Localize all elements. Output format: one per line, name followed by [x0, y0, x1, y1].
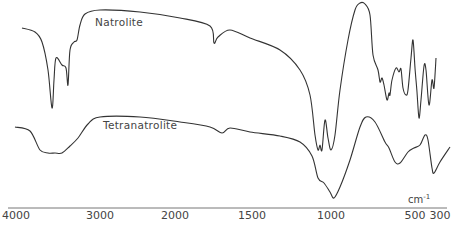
x-tick-label: 1500: [238, 209, 266, 222]
x-axis-unit-label: cm-1: [408, 193, 430, 205]
x-tick-label: 4000: [2, 209, 30, 222]
x-tick-label: 1000: [317, 209, 345, 222]
tetranatrolite-label: Tetranatrolite: [103, 119, 177, 131]
ir-spectrum-chart: [0, 0, 451, 229]
x-tick-label: 2000: [161, 209, 189, 222]
x-tick-label: 500: [405, 209, 426, 222]
natrolite-label: Natrolite: [95, 16, 143, 28]
tetranatrolite-spectrum-line: [15, 116, 450, 198]
x-tick-label: 300: [430, 209, 451, 222]
x-tick-label: 3000: [86, 209, 114, 222]
